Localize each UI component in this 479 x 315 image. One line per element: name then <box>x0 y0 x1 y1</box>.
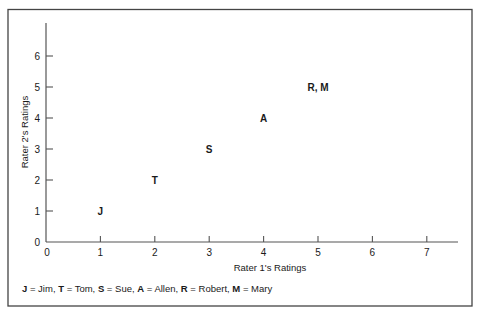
x-tick-label: 7 <box>424 247 430 258</box>
x-tick-label: 4 <box>261 247 267 258</box>
y-tick-label: 4 <box>34 113 40 124</box>
legend-key-name: = Robert, <box>188 283 233 294</box>
scatter-chart: 0123456 01234567 Rater 2's Ratings Rater… <box>0 0 479 315</box>
y-tick-label: 5 <box>34 82 40 93</box>
y-tick-label: 1 <box>34 206 40 217</box>
data-points: JTSAR, M <box>98 82 329 217</box>
x-tick-label: 3 <box>206 247 212 258</box>
y-ticks: 0123456 <box>34 51 53 248</box>
x-tick-label: 0 <box>44 247 50 258</box>
y-axis-title: Rater 2's Ratings <box>19 95 30 168</box>
y-tick-label: 0 <box>34 237 40 248</box>
data-point-label: R, M <box>307 82 328 93</box>
legend-key-name: = Tom, <box>64 283 98 294</box>
data-point-label: A <box>260 113 267 124</box>
x-axis-title: Rater 1's Ratings <box>234 262 307 273</box>
y-tick-label: 2 <box>34 175 40 186</box>
x-tick-label: 2 <box>152 247 158 258</box>
data-point-label: S <box>206 144 213 155</box>
legend-key-name: = Sue, <box>104 283 137 294</box>
legend-key-name: = Jim, <box>27 283 58 294</box>
legend-key-name: = Allen, <box>144 283 181 294</box>
legend-key-name: = Mary <box>240 283 272 294</box>
data-point-label: J <box>98 206 104 217</box>
legend-key: J = Jim, T = Tom, S = Sue, A = Allen, R … <box>22 283 272 294</box>
legend-key-letter: M <box>232 283 240 294</box>
x-tick-label: 1 <box>98 247 104 258</box>
y-tick-label: 6 <box>34 51 40 62</box>
x-tick-label: 6 <box>370 247 376 258</box>
x-ticks: 01234567 <box>44 236 430 258</box>
axes: 0123456 01234567 <box>34 23 458 258</box>
x-tick-label: 5 <box>315 247 321 258</box>
y-tick-label: 3 <box>34 144 40 155</box>
data-point-label: T <box>152 175 158 186</box>
